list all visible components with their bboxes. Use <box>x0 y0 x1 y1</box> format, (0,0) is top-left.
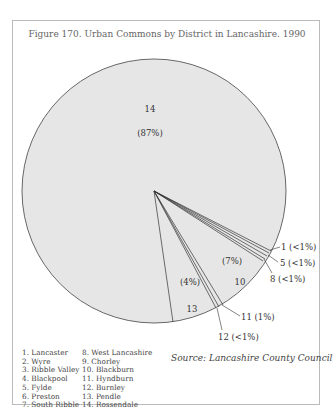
label-11: 11 (1%) <box>241 312 275 322</box>
label-12: 12 (<1%) <box>218 332 259 342</box>
source-note: Source: Lancashire County Council <box>171 353 332 363</box>
label-13: 13 <box>187 304 198 314</box>
legend-col-1: 1. Lancaster 2. Wyre 3. Ribble Valley 4.… <box>22 349 79 410</box>
label-13-pct: (4%) <box>180 277 200 287</box>
label-1: 1 (<1%) <box>281 242 316 252</box>
label-10-pct: (7%) <box>222 256 242 266</box>
legend-col-2: 8. West Lancashire 9. Chorley 10. Blackb… <box>82 349 152 410</box>
label-14: 14 <box>145 104 156 114</box>
label-8: 8 (<1%) <box>270 274 305 284</box>
legend-item: 7. South Ribble <box>22 401 79 410</box>
label-10: 10 <box>235 277 246 287</box>
legend-item: 14. Rossendale <box>82 401 152 410</box>
label-14-pct: (87%) <box>137 128 163 138</box>
label-5: 5 (<1%) <box>280 258 315 268</box>
